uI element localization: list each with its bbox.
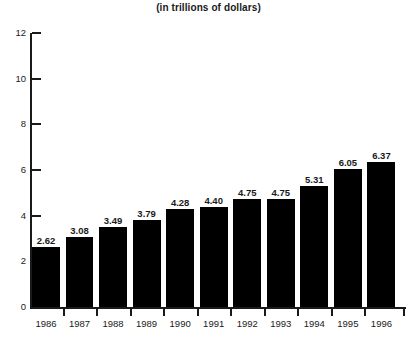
x-axis-tick [297,309,299,316]
bar [334,169,362,307]
y-axis-tick-label-wrap: 2 [0,256,26,266]
y-axis-tick-label-wrap: 12 [0,28,26,38]
y-axis-tick-label: 4 [4,211,26,221]
bar [267,199,295,307]
bar-value-label: 3.08 [62,225,98,236]
bar-value-label: 6.05 [330,157,366,168]
bar-value-label: 4.75 [229,187,265,198]
bar-value-label: 4.40 [196,195,232,206]
y-axis-tick-label: 12 [4,28,26,38]
x-axis-tick [264,309,266,316]
y-axis-tick-label: 10 [4,74,26,84]
bar [32,247,60,307]
y-axis-tick [32,32,41,34]
bar [233,199,261,307]
y-axis-tick [32,123,41,125]
x-axis-tick [163,309,165,316]
x-axis-line [30,307,406,309]
x-axis-tick [331,309,333,316]
x-axis-tick [197,309,199,316]
x-axis-tick [364,309,366,316]
y-axis-tick-label-wrap: 0 [0,302,26,312]
y-axis-tick-label-wrap: 10 [0,74,26,84]
x-axis-end-tick [403,309,405,316]
bar-value-label: 5.31 [296,174,332,185]
bar [166,209,194,307]
bar [133,220,161,307]
y-axis-tick-label-wrap: 6 [0,165,26,175]
bar-value-label: 4.28 [162,197,198,208]
y-axis-tick-label-wrap: 8 [0,119,26,129]
bar-value-label: 2.62 [28,235,64,246]
y-axis-tick-label-wrap: 4 [0,211,26,221]
y-axis-tick-label: 8 [4,119,26,129]
x-axis-tick [130,309,132,316]
y-axis-tick [32,169,41,171]
x-axis-tick [63,309,65,316]
x-axis-category-label: 1996 [361,318,401,329]
y-axis-tick-label: 2 [4,256,26,266]
bar-chart: (in trillions of dollars) 024681012 1986… [0,0,417,344]
bar-value-label: 3.49 [95,215,131,226]
y-axis-tick-label: 0 [4,302,26,312]
bar-value-label: 4.75 [263,187,299,198]
bar [99,227,127,307]
x-axis-tick [96,309,98,316]
y-axis-tick [32,78,41,80]
bar-value-label: 3.79 [129,208,165,219]
chart-title: (in trillions of dollars) [0,2,417,13]
bar [300,186,328,307]
bar [200,207,228,307]
bar [367,162,395,307]
y-axis-tick-label: 6 [4,165,26,175]
x-axis-tick [230,309,232,316]
bar [66,237,94,307]
y-axis-tick [32,215,41,217]
bar-value-label: 6.37 [363,150,399,161]
